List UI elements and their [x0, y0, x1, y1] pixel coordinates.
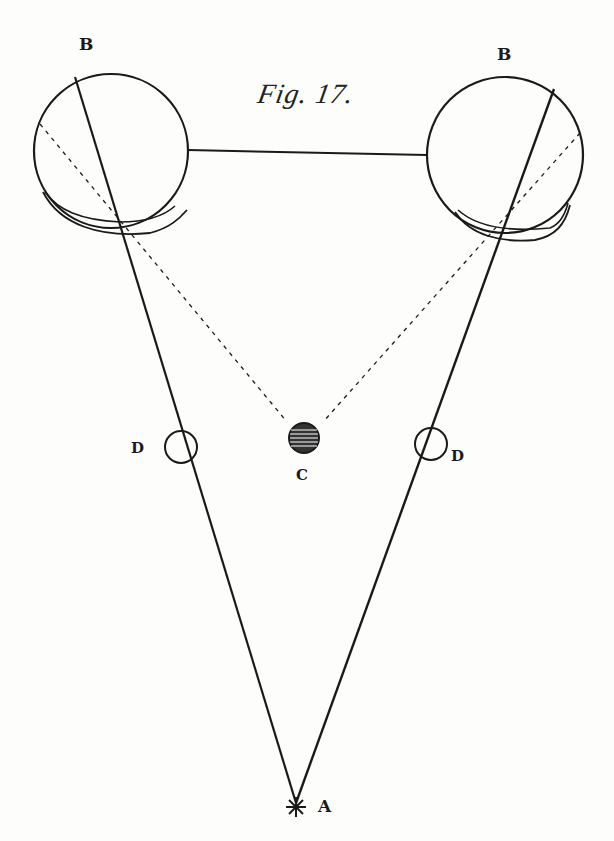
- label-d-left: D: [131, 441, 144, 456]
- optics-diagram: [0, 0, 614, 841]
- label-a: A: [318, 798, 331, 815]
- point-source-star: [286, 797, 306, 817]
- label-b-right: B: [497, 46, 511, 63]
- right-eye: [427, 77, 583, 241]
- figure-caption: Fig. 17.: [255, 78, 357, 110]
- ring-left: [165, 431, 197, 463]
- label-b-left: B: [79, 36, 93, 53]
- ray-left: [75, 77, 296, 803]
- dashed-line-right: [323, 133, 580, 422]
- ray-right: [296, 89, 554, 803]
- dashed-line-left: [40, 124, 287, 422]
- inter-eye-line: [188, 150, 427, 155]
- object-c: [289, 423, 319, 453]
- diagram-page: Fig. 17. B B C D D A: [0, 0, 614, 841]
- label-c: C: [296, 468, 308, 483]
- label-d-right: D: [451, 449, 464, 464]
